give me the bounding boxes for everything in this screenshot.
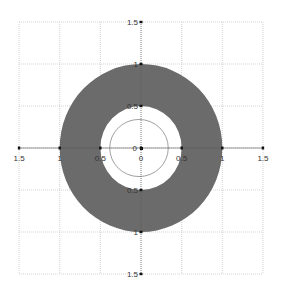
origin-mark [140,147,143,150]
x-tick-label: 0.5 [95,154,107,163]
x-tick-label: 0.5 [176,154,188,163]
y-tick-label: 0.5 [127,186,139,195]
y-tick-mark [140,231,143,233]
y-tick-label: 0.5 [127,102,139,111]
y-tick-label: 1 [134,60,139,69]
x-tick-mark [18,147,20,150]
x-tick-mark [221,147,223,150]
y-tick-mark [140,189,143,191]
y-tick-mark [140,273,143,275]
x-tick-mark [99,147,101,150]
x-tick-label: 0 [139,154,144,163]
y-tick-mark [140,63,143,65]
x-tick-mark [262,147,264,150]
y-tick-mark [140,105,143,107]
y-tick-mark [140,21,143,23]
x-tick-mark [59,147,61,150]
y-tick-label: 1 [134,228,139,237]
y-tick-label: 1.5 [127,270,139,279]
x-tick-mark [180,147,182,150]
x-tick-label: 1 [220,154,225,163]
chart-plot: 1.510.500.511.51.510.50.511.50 [0,0,281,296]
x-tick-label: 1.5 [257,154,269,163]
origin-label: 0 [133,144,138,153]
x-tick-label: 1.5 [13,154,25,163]
x-tick-label: 1 [57,154,62,163]
y-tick-label: 1.5 [127,18,139,27]
